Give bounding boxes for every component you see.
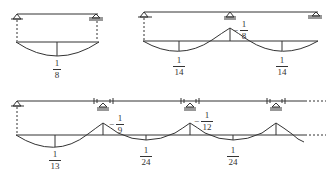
roller-support-icon [181,98,199,110]
pin-support-icon [138,12,152,17]
roller-support-icon [224,12,236,19]
multi-span-beam [11,98,326,147]
moment-label: 1 14 [173,56,185,77]
roller-support-icon [94,98,113,110]
roller-support-icon [308,12,322,18]
pin-support-icon [11,101,24,106]
moment-label: − 1 8 [240,20,248,41]
moment-label: 1 8 [53,59,61,80]
moment-label: 1 13 [49,150,61,171]
single-span-beam [11,14,103,56]
moment-label: 1 24 [140,146,152,167]
moment-label: 1 24 [227,146,239,167]
roller-support-icon [267,98,285,110]
roller-support-icon [89,14,103,20]
moment-label: − 1 12 [201,111,213,132]
moment-label: − 1 9 [116,114,124,135]
two-span-beam [138,12,322,51]
moment-label: 1 14 [276,56,288,77]
pin-support-icon [11,14,23,19]
